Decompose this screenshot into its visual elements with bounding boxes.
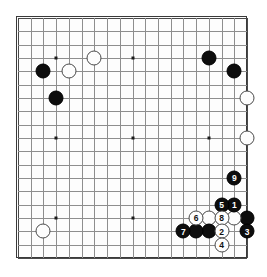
- stone-black[interactable]: [49, 91, 64, 106]
- star-point: [131, 137, 134, 140]
- grid-line-vertical: [145, 18, 146, 258]
- stone-move-number: 6: [190, 212, 203, 225]
- star-point: [131, 57, 134, 60]
- grid-line-horizontal: [18, 191, 247, 192]
- grid-line-vertical: [158, 18, 159, 258]
- grid-line-horizontal: [18, 245, 247, 246]
- stone-white-move-6[interactable]: 6: [189, 211, 204, 226]
- stone-white[interactable]: [240, 91, 255, 106]
- stone-move-number: 8: [215, 212, 228, 225]
- star-point: [55, 137, 58, 140]
- stone-white[interactable]: [36, 224, 51, 239]
- star-point: [55, 217, 58, 220]
- grid-line-horizontal: [18, 165, 247, 166]
- grid-line-horizontal: [18, 151, 247, 152]
- go-diagram-page: 915863274: [0, 0, 267, 277]
- stone-black-move-7[interactable]: 7: [176, 224, 191, 239]
- stone-white[interactable]: [87, 51, 102, 66]
- star-point: [207, 137, 210, 140]
- stone-black-move-3[interactable]: 3: [240, 224, 255, 239]
- star-point: [131, 217, 134, 220]
- stone-black[interactable]: [36, 64, 51, 79]
- grid-line-vertical: [183, 18, 184, 258]
- grid-line-horizontal: [18, 205, 247, 206]
- stone-move-number: 7: [177, 225, 190, 238]
- stone-white-move-4[interactable]: 4: [214, 237, 229, 252]
- grid-line-vertical: [171, 18, 172, 258]
- stone-white[interactable]: [240, 131, 255, 146]
- grid-line-horizontal: [18, 178, 247, 179]
- stone-black[interactable]: [227, 64, 242, 79]
- stone-move-number: 2: [215, 225, 228, 238]
- stone-white[interactable]: [61, 64, 76, 79]
- stone-black-move-9[interactable]: 9: [227, 171, 242, 186]
- stone-black[interactable]: [201, 51, 216, 66]
- grid-line-horizontal: [18, 258, 247, 259]
- stone-move-number: 9: [228, 172, 241, 185]
- stone-move-number: 5: [215, 198, 228, 211]
- go-board[interactable]: 915863274: [16, 16, 247, 258]
- stone-move-number: 1: [228, 198, 241, 211]
- star-point: [55, 57, 58, 60]
- stone-move-number: 4: [215, 238, 228, 251]
- stone-move-number: 3: [241, 225, 254, 238]
